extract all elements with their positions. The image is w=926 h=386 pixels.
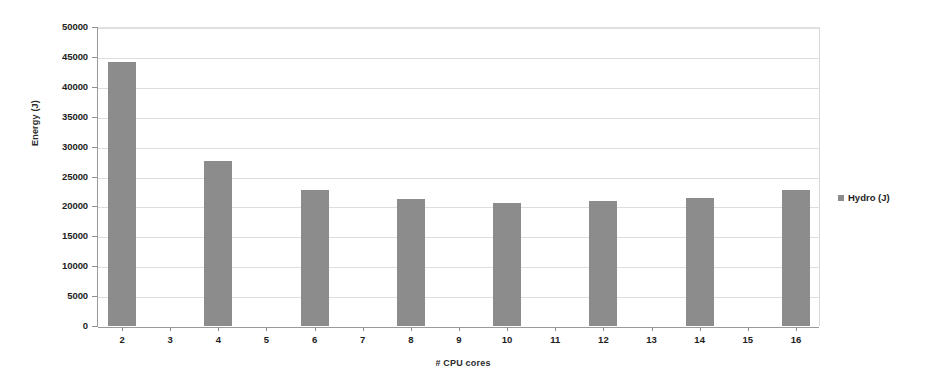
x-tick-label: 14: [680, 334, 720, 345]
x-tick-mark: [315, 327, 316, 331]
bar: [108, 62, 136, 326]
y-tick-label: 50000: [28, 21, 88, 32]
gridline: [98, 118, 819, 119]
bar: [397, 199, 425, 326]
x-tick-mark: [459, 327, 460, 331]
y-tick-label: 30000: [28, 141, 88, 152]
x-tick-mark: [748, 327, 749, 331]
gridline: [98, 58, 819, 59]
y-tick-mark: [92, 87, 97, 88]
y-tick-label: 40000: [28, 81, 88, 92]
gridline: [98, 28, 819, 29]
y-tick-label: 45000: [28, 51, 88, 62]
x-tick-label: 15: [728, 334, 768, 345]
y-tick-label: 15000: [28, 230, 88, 241]
x-tick-label: 7: [343, 334, 383, 345]
bar: [782, 190, 810, 326]
y-tick-label: 20000: [28, 200, 88, 211]
y-tick-mark: [92, 117, 97, 118]
x-tick-mark: [122, 327, 123, 331]
y-tick-label: 5000: [28, 290, 88, 301]
y-tick-mark: [92, 236, 97, 237]
bar: [686, 198, 714, 326]
x-tick-label: 8: [391, 334, 431, 345]
x-tick-label: 2: [102, 334, 142, 345]
x-tick-label: 5: [246, 334, 286, 345]
x-tick-mark: [218, 327, 219, 331]
x-tick-mark: [555, 327, 556, 331]
x-tick-label: 10: [487, 334, 527, 345]
bar: [493, 203, 521, 326]
x-tick-mark: [652, 327, 653, 331]
x-tick-label: 12: [583, 334, 623, 345]
x-tick-label: 6: [295, 334, 335, 345]
bar-chart: Energy (J) 50000450004000035000300002500…: [0, 0, 926, 386]
y-tick-label: 35000: [28, 111, 88, 122]
x-tick-label: 9: [439, 334, 479, 345]
x-tick-label: 11: [535, 334, 575, 345]
plot-area: [98, 27, 820, 326]
y-tick-label: 0: [28, 320, 88, 331]
x-tick-label: 3: [150, 334, 190, 345]
legend-label-hydro: Hydro (J): [848, 192, 890, 203]
bar: [301, 190, 329, 326]
x-tick-mark: [700, 327, 701, 331]
y-tick-mark: [92, 266, 97, 267]
y-tick-mark: [92, 177, 97, 178]
x-tick-mark: [796, 327, 797, 331]
x-axis-title: # CPU cores: [0, 358, 926, 368]
x-tick-mark: [411, 327, 412, 331]
y-tick-mark: [92, 296, 97, 297]
y-tick-mark: [92, 206, 97, 207]
x-tick-mark: [363, 327, 364, 331]
x-tick-mark: [266, 327, 267, 331]
gridline: [98, 88, 819, 89]
x-tick-label: 13: [632, 334, 672, 345]
y-tick-label: 25000: [28, 171, 88, 182]
bar: [589, 201, 617, 326]
y-tick-mark: [92, 57, 97, 58]
x-tick-label: 4: [198, 334, 238, 345]
x-tick-mark: [603, 327, 604, 331]
chart-legend: Hydro (J): [838, 192, 890, 203]
legend-swatch-hydro: [838, 195, 844, 201]
bar: [204, 161, 232, 326]
x-tick-mark: [507, 327, 508, 331]
x-tick-label: 16: [776, 334, 816, 345]
y-tick-mark: [92, 326, 97, 327]
y-tick-mark: [92, 147, 97, 148]
gridline: [98, 148, 819, 149]
x-tick-mark: [170, 327, 171, 331]
y-tick-mark: [92, 27, 97, 28]
y-tick-label: 10000: [28, 260, 88, 271]
